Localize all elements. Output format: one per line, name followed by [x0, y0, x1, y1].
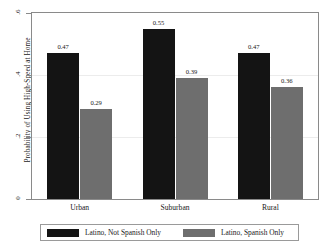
bar-value-label: 0.39	[176, 68, 208, 75]
legend-swatch-icon-series-0	[47, 229, 79, 237]
bars-layer: 0.470.290.550.390.470.36	[32, 13, 318, 199]
chart-legend: Latino, Not Spanish Only Latino, Spanish…	[40, 224, 299, 241]
bar-value-label: 0.55	[143, 19, 175, 26]
y-axis-tick-label: .4	[11, 70, 25, 80]
y-axis-tick-mark	[26, 75, 31, 76]
y-axis-tick-mark	[26, 13, 31, 14]
x-axis-category-label: Rural	[223, 203, 318, 212]
x-axis-category-label: Urban	[32, 203, 127, 212]
bar	[47, 53, 79, 199]
x-axis-category-label: Suburban	[127, 203, 222, 212]
bar	[176, 78, 208, 199]
y-axis-tick-label: .6	[11, 8, 25, 18]
bar	[271, 87, 303, 199]
bar-value-label: 0.29	[80, 99, 112, 106]
bar-value-label: 0.47	[47, 43, 79, 50]
bar-chart-figure: Probability of Using High-Speed at Home …	[0, 0, 331, 251]
bar	[238, 53, 270, 199]
bar-value-label: 0.36	[271, 77, 303, 84]
legend-entry-series-0[interactable]: Latino, Not Spanish Only	[47, 225, 161, 240]
bar	[80, 109, 112, 199]
y-axis-tick-mark	[26, 137, 31, 138]
y-axis-tick-label: 0	[11, 194, 25, 204]
y-axis-tick-mark	[26, 199, 31, 200]
legend-label-series-0: Latino, Not Spanish Only	[85, 228, 161, 237]
bar	[143, 29, 175, 200]
legend-entry-series-1[interactable]: Latino, Spanish Only	[183, 225, 284, 240]
x-axis-label-group: UrbanSuburbanRural	[32, 203, 318, 217]
y-axis-tick-label: .2	[11, 132, 25, 142]
bar-value-label: 0.47	[238, 43, 270, 50]
legend-label-series-1: Latino, Spanish Only	[221, 228, 284, 237]
legend-swatch-icon-series-1	[183, 229, 215, 237]
